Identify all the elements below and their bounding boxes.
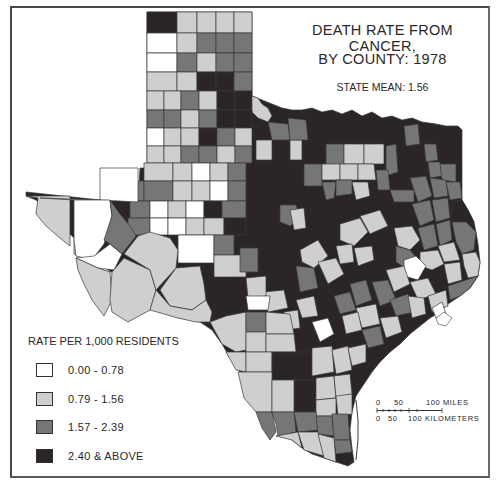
legend-label: 1.57 - 2.39	[68, 421, 124, 433]
scale-label: 50	[388, 414, 408, 423]
state-mean-label: STATE MEAN: 1.56	[280, 81, 485, 93]
legend-swatch-black	[36, 449, 53, 463]
scale-label: 100 KILOMETERS	[408, 414, 479, 423]
scale-miles-labels: 0 50 100 MILES	[376, 398, 479, 407]
scale-km-labels: 0 50 100 KILOMETERS	[376, 414, 479, 423]
scale-label: 0	[376, 414, 388, 423]
scale-label: 100 MILES	[426, 398, 469, 407]
scale-bar: 0 50 100 MILES 0 50 100 KILOMETERS	[376, 398, 479, 423]
legend-item: 1.57 - 2.39	[36, 413, 179, 442]
legend-label: 0.00 - 0.78	[68, 364, 124, 376]
legend-title: RATE PER 1,000 RESIDENTS	[28, 335, 179, 347]
legend-label: 0.79 - 1.56	[68, 393, 124, 405]
scale-label: 50	[394, 398, 426, 407]
map-title-line-1: DEATH RATE FROM CANCER,	[280, 22, 485, 54]
legend-label: 2.40 & ABOVE	[68, 450, 144, 462]
legend-item: 0.00 - 0.78	[36, 356, 179, 385]
legend-item: 0.79 - 1.56	[36, 385, 179, 414]
legend-swatch-dark-gray	[36, 420, 53, 434]
legend-item: 2.40 & ABOVE	[36, 442, 179, 471]
legend: RATE PER 1,000 RESIDENTS 0.00 - 0.78 0.7…	[28, 335, 179, 470]
scale-ruler	[376, 408, 446, 413]
scale-label: 0	[376, 398, 394, 407]
legend-swatch-light-gray	[36, 392, 53, 406]
padre-island-coastline	[356, 400, 358, 460]
legend-swatch-white	[36, 363, 53, 377]
map-title-line-2: BY COUNTY: 1978	[280, 51, 485, 67]
